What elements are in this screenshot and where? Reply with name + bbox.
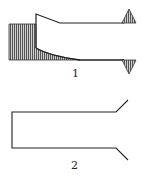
- hatched-block: [9, 24, 80, 60]
- upper-support-triangle-icon: [122, 9, 136, 23]
- open-profile-line: [12, 100, 128, 160]
- figure-1: [9, 9, 136, 74]
- upper-profile-line: [36, 14, 124, 48]
- figure-2: [12, 100, 128, 160]
- diagram-canvas: [0, 0, 150, 177]
- lower-support-triangle-icon: [122, 60, 136, 74]
- figure-2-label: 2: [71, 160, 78, 171]
- figure-1-label: 1: [72, 68, 79, 79]
